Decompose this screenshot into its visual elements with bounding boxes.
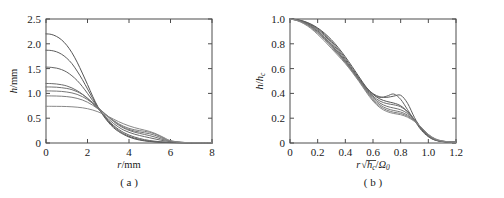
panel-a-curves	[46, 34, 212, 143]
x-tick-label-5: 1.0	[421, 146, 435, 158]
panel-b-y-axis-denom-sub: c	[258, 72, 267, 76]
data-curve-3	[46, 67, 212, 143]
panel-a-y-axis-unit: /mm	[8, 69, 19, 88]
panel-b-caption: ( b )	[364, 176, 383, 189]
data-curve-4	[290, 19, 456, 142]
data-curve-2	[46, 50, 212, 143]
panel-b-x-tick-labels: 00.20.40.60.81.01.2	[287, 146, 463, 158]
x-tick-label-3: 0.6	[366, 146, 380, 158]
panel-b-y-axis-title: h/hc	[254, 72, 267, 89]
y-tick-label-0: 0	[280, 137, 286, 149]
panel-b-x-axis-title-text: r√hc/Ω0	[356, 159, 390, 172]
panel-b-tickmarks	[290, 19, 456, 143]
y-tick-label-2: 1.0	[27, 87, 41, 99]
panel-a-y-axis-title: h/mm	[8, 69, 19, 94]
x-tick-label-3: 6	[168, 146, 174, 158]
panel-b-plot-area: 00.20.40.60.81.01.2 00.20.40.60.81.0	[271, 13, 463, 158]
x-tick-label-6: 1.2	[449, 146, 463, 158]
data-curve-6	[290, 19, 456, 142]
data-curve-8	[290, 19, 456, 142]
panel-a-axes-frame	[46, 19, 212, 143]
y-tick-label-3: 1.5	[27, 63, 41, 75]
x-tick-label-0: 0	[287, 146, 293, 158]
figure-root: 02468 00.51.01.52.02.5 r/mm h/mm ( a ) 0…	[0, 0, 504, 198]
data-curve-5	[46, 87, 212, 143]
panel-b-svg: 00.20.40.60.81.01.2 00.20.40.60.81.0 r√h…	[252, 0, 504, 198]
panel-a-x-axis-unit: /mm	[121, 159, 140, 170]
data-curve-5	[290, 19, 456, 142]
y-tick-label-0: 0	[36, 137, 42, 149]
panel-a-x-tick-labels: 02468	[43, 146, 215, 158]
panel-b-axes-frame	[290, 19, 456, 143]
data-curve-3	[290, 19, 456, 142]
panel-b: 00.20.40.60.81.01.2 00.20.40.60.81.0 r√h…	[252, 0, 504, 198]
x-tick-label-1: 2	[85, 146, 91, 158]
panel-b-x-axis-title: r√hc/Ω0	[356, 159, 390, 172]
data-curve-1	[46, 34, 212, 143]
panel-b-y-tick-labels: 00.20.40.60.81.0	[271, 13, 285, 149]
panel-a-caption: ( a )	[120, 176, 138, 189]
y-tick-label-2: 0.4	[271, 87, 285, 99]
y-tick-label-3: 0.6	[271, 63, 285, 75]
panel-a-x-axis-title: r/mm	[117, 159, 140, 170]
panel-b-curves	[290, 19, 456, 142]
panel-a-plot-area: 02468 00.51.01.52.02.5	[27, 13, 215, 158]
y-tick-label-4: 0.8	[271, 38, 285, 50]
y-tick-label-4: 2.0	[27, 38, 41, 50]
panel-b-x-axis-denom-sub: 0	[386, 163, 390, 172]
panel-a-tickmarks	[46, 19, 212, 143]
y-tick-label-1: 0.2	[271, 112, 285, 124]
y-tick-label-5: 1.0	[271, 13, 285, 25]
panel-a-svg: 02468 00.51.01.52.02.5 r/mm h/mm ( a )	[0, 0, 252, 198]
x-tick-label-4: 8	[209, 146, 215, 158]
data-curve-7	[290, 19, 456, 142]
panel-a: 02468 00.51.01.52.02.5 r/mm h/mm ( a )	[0, 0, 252, 198]
y-tick-label-5: 2.5	[27, 13, 41, 25]
x-tick-label-2: 0.4	[338, 146, 352, 158]
x-tick-label-2: 4	[126, 146, 132, 158]
data-curve-1	[290, 19, 456, 142]
y-tick-label-1: 0.5	[27, 112, 41, 124]
panel-a-y-tick-labels: 00.51.01.52.02.5	[27, 13, 41, 149]
x-tick-label-0: 0	[43, 146, 49, 158]
data-curve-2	[290, 19, 456, 142]
x-tick-label-1: 0.2	[311, 146, 325, 158]
x-tick-label-4: 0.8	[394, 146, 408, 158]
